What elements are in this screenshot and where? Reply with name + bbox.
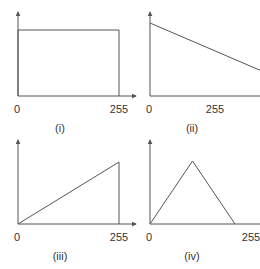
x-tick-label-0: 0 [14, 231, 20, 243]
x-tick-label-255: 255 [206, 103, 224, 115]
x-tick-label-0: 0 [14, 103, 20, 115]
function-line [18, 30, 119, 96]
x-tick-label-0: 0 [146, 231, 152, 243]
x-tick-label-255: 255 [110, 231, 128, 243]
panel-caption: (iii) [53, 250, 68, 262]
panel-caption: (i) [55, 122, 65, 134]
x-tick-label-255: 255 [110, 103, 128, 115]
function-line [150, 23, 260, 96]
function-line [18, 162, 119, 224]
x-tick-label-255: 255 [242, 231, 260, 243]
panel-iii: 0 255 (iii) [14, 140, 136, 262]
panel-caption: (iv) [184, 250, 199, 262]
figure: 0 255 (i) 0 255 (ii) 0 255 (iii) 0 255 (… [0, 0, 260, 269]
x-tick-label-0: 0 [146, 103, 152, 115]
function-line [150, 161, 235, 224]
panel-caption: (ii) [186, 122, 198, 134]
panel-ii: 0 255 (ii) [146, 12, 260, 134]
panel-iv: 0 255 (iv) [146, 140, 260, 262]
panel-i: 0 255 (i) [14, 12, 136, 134]
